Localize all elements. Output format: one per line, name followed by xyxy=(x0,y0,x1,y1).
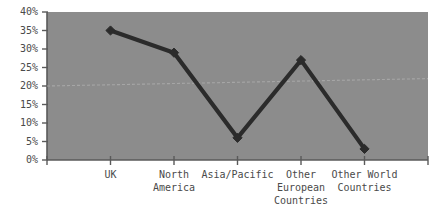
x-axis-labels: UKNorth AmericaAsia/PacificOther Europea… xyxy=(0,0,440,223)
x-tick-label: Other World Countries xyxy=(319,168,411,194)
line-chart: 0%5%10%15%20%25%30%35%40% UKNorth Americ… xyxy=(0,0,440,223)
